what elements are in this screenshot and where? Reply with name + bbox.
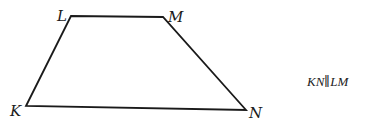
vertex-label-l: L	[56, 7, 67, 25]
parallel-relation-text: KN∥LM	[306, 74, 350, 89]
diagram-canvas: L M K N KN∥LM	[0, 0, 371, 119]
vertex-label-n: N	[248, 104, 263, 119]
trapezoid-figure: L M K N KN∥LM	[0, 0, 371, 119]
vertex-label-m: M	[167, 8, 184, 26]
vertex-label-k: K	[9, 102, 22, 119]
trapezoid-klmn	[26, 16, 246, 110]
